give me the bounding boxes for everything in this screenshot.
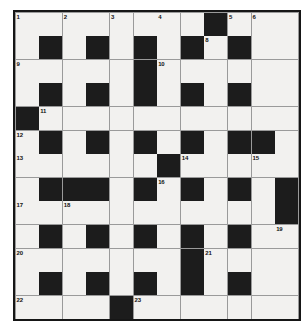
open-square[interactable]: 10 — [157, 60, 180, 83]
open-square[interactable] — [181, 107, 204, 130]
open-square[interactable] — [252, 36, 275, 59]
open-square[interactable] — [204, 131, 227, 154]
open-square[interactable] — [204, 201, 227, 224]
open-square[interactable] — [228, 107, 251, 130]
open-square[interactable] — [110, 201, 133, 224]
open-square[interactable]: 19 — [275, 225, 298, 248]
open-square[interactable] — [252, 272, 275, 295]
open-square[interactable] — [228, 201, 251, 224]
open-square[interactable]: 8 — [204, 36, 227, 59]
open-square[interactable]: 20 — [16, 249, 39, 272]
open-square[interactable] — [16, 272, 39, 295]
open-square[interactable] — [134, 249, 157, 272]
open-square[interactable] — [110, 272, 133, 295]
open-square[interactable]: 16 — [157, 178, 180, 201]
open-square[interactable] — [275, 272, 298, 295]
open-square[interactable] — [275, 83, 298, 106]
open-square[interactable] — [275, 154, 298, 177]
open-square[interactable]: 14 — [181, 154, 204, 177]
open-square[interactable] — [157, 107, 180, 130]
open-square[interactable] — [110, 36, 133, 59]
open-square[interactable] — [204, 83, 227, 106]
open-square[interactable] — [275, 131, 298, 154]
open-square[interactable] — [110, 178, 133, 201]
open-square[interactable] — [157, 296, 180, 319]
open-square[interactable] — [63, 107, 86, 130]
open-square[interactable] — [39, 296, 62, 319]
open-square[interactable] — [204, 272, 227, 295]
open-square[interactable] — [181, 201, 204, 224]
open-square[interactable] — [252, 60, 275, 83]
open-square[interactable] — [86, 60, 109, 83]
open-square[interactable] — [228, 296, 251, 319]
open-square[interactable] — [86, 107, 109, 130]
open-square[interactable]: 9 — [16, 60, 39, 83]
open-square[interactable] — [86, 249, 109, 272]
open-square[interactable]: 1 — [16, 13, 39, 36]
open-square[interactable] — [228, 154, 251, 177]
open-square[interactable] — [252, 178, 275, 201]
open-square[interactable]: 15 — [252, 154, 275, 177]
open-square[interactable] — [63, 83, 86, 106]
open-square[interactable] — [252, 225, 275, 248]
open-square[interactable] — [204, 225, 227, 248]
open-square[interactable]: 3 — [110, 13, 133, 36]
open-square[interactable] — [204, 60, 227, 83]
open-square[interactable] — [110, 107, 133, 130]
open-square[interactable] — [252, 83, 275, 106]
open-square[interactable] — [157, 225, 180, 248]
open-square[interactable] — [181, 60, 204, 83]
open-square[interactable] — [110, 225, 133, 248]
open-square[interactable] — [63, 131, 86, 154]
open-square[interactable] — [181, 296, 204, 319]
open-square[interactable] — [39, 13, 62, 36]
open-square[interactable] — [110, 131, 133, 154]
open-square[interactable] — [275, 36, 298, 59]
open-square[interactable] — [110, 249, 133, 272]
open-square[interactable] — [228, 60, 251, 83]
open-square[interactable]: 4 — [157, 13, 180, 36]
open-square[interactable] — [39, 249, 62, 272]
open-square[interactable] — [181, 13, 204, 36]
open-square[interactable]: 18 — [63, 201, 86, 224]
open-square[interactable] — [110, 154, 133, 177]
open-square[interactable]: 6 — [252, 13, 275, 36]
open-square[interactable] — [204, 154, 227, 177]
open-square[interactable] — [16, 83, 39, 106]
open-square[interactable] — [63, 272, 86, 295]
open-square[interactable] — [86, 201, 109, 224]
open-square[interactable] — [157, 131, 180, 154]
open-square[interactable]: 21 — [204, 249, 227, 272]
open-square[interactable] — [86, 13, 109, 36]
open-square[interactable] — [63, 225, 86, 248]
open-square[interactable] — [39, 60, 62, 83]
open-square[interactable] — [86, 296, 109, 319]
open-square[interactable]: 23 — [134, 296, 157, 319]
open-square[interactable] — [275, 249, 298, 272]
open-square[interactable] — [275, 107, 298, 130]
open-square[interactable]: 2 — [63, 13, 86, 36]
open-square[interactable] — [157, 272, 180, 295]
open-square[interactable] — [63, 154, 86, 177]
open-square[interactable]: 12 — [16, 131, 39, 154]
crossword-grid[interactable]: 123456891011121314151617181920212223 — [15, 12, 299, 319]
open-square[interactable] — [157, 36, 180, 59]
open-square[interactable] — [157, 83, 180, 106]
open-square[interactable] — [16, 36, 39, 59]
open-square[interactable] — [228, 249, 251, 272]
open-square[interactable] — [134, 154, 157, 177]
open-square[interactable]: 17 — [16, 201, 39, 224]
open-square[interactable] — [252, 107, 275, 130]
open-square[interactable] — [157, 201, 180, 224]
open-square[interactable] — [86, 154, 109, 177]
open-square[interactable] — [275, 60, 298, 83]
open-square[interactable] — [204, 178, 227, 201]
open-square[interactable]: 13 — [16, 154, 39, 177]
open-square[interactable] — [252, 201, 275, 224]
open-square[interactable] — [110, 60, 133, 83]
open-square[interactable]: 22 — [16, 296, 39, 319]
open-square[interactable] — [39, 154, 62, 177]
open-square[interactable]: 5 — [228, 13, 251, 36]
open-square[interactable] — [275, 13, 298, 36]
open-square[interactable] — [204, 296, 227, 319]
